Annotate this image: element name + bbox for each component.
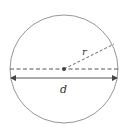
diameter-label: d bbox=[60, 83, 67, 96]
circle-diagram: r d bbox=[0, 0, 129, 129]
radius-dashed-line bbox=[64, 44, 114, 69]
radius-label: r bbox=[82, 46, 88, 57]
center-dot bbox=[62, 67, 66, 71]
